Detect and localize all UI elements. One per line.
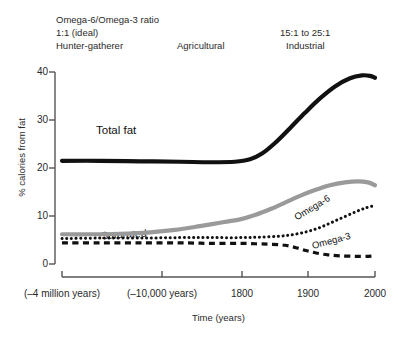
x-axis-ticks [62, 271, 375, 277]
series-line-omega-3 [62, 243, 375, 257]
y-axis-ticks [49, 72, 55, 264]
plot-area [0, 0, 399, 338]
series-lines [62, 75, 375, 256]
axis-lines [49, 72, 375, 277]
series-line-total-fat [62, 75, 375, 162]
series-line-saturated [62, 181, 375, 234]
chart-figure: Omega-6/Omega-3 ratio1:1 (ideal) Hunter-… [0, 0, 399, 338]
